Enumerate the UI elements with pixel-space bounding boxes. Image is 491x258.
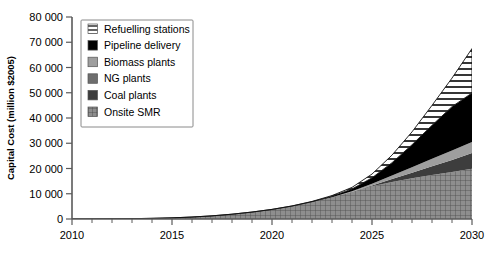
y-tick-label: 10 000: [29, 188, 63, 200]
chart-legend: Refuelling stationsPipeline deliveryBiom…: [81, 20, 193, 127]
x-tick-label: 2030: [460, 229, 484, 241]
y-tick-label: 0: [57, 213, 63, 225]
y-tick-label: 50 000: [29, 87, 63, 99]
legend-swatch-coal-plants: [88, 90, 98, 100]
x-tick-label: 2025: [360, 229, 384, 241]
legend-swatch-biomass-plants: [88, 57, 98, 66]
legend-swatch-pipeline-delivery: [88, 41, 98, 51]
legend-swatch-ng-plants: [88, 74, 98, 84]
y-tick-label: 70 000: [29, 36, 63, 48]
legend-label-onsite-smr: Onsite SMR: [104, 106, 161, 118]
legend-label-ng-plants: NG plants: [104, 72, 151, 84]
legend-label-coal-plants: Coal plants: [104, 89, 157, 101]
x-tick-label: 2020: [260, 229, 284, 241]
chart-canvas: 010 00020 00030 00040 00050 00060 00070 …: [0, 0, 491, 258]
y-tick-label: 40 000: [29, 112, 63, 124]
y-tick-label: 60 000: [29, 62, 63, 74]
y-tick-label: 80 000: [29, 11, 63, 23]
y-tick-label: 20 000: [29, 163, 63, 175]
y-tick-label: 30 000: [29, 137, 63, 149]
x-tick-label: 2010: [60, 229, 84, 241]
legend-swatch-refuelling-stations: [88, 24, 98, 34]
capital-cost-stacked-area-chart: 010 00020 00030 00040 00050 00060 00070 …: [0, 0, 491, 258]
legend-label-refuelling-stations: Refuelling stations: [104, 23, 190, 35]
legend-label-biomass-plants: Biomass plants: [104, 56, 175, 68]
legend-label-pipeline-delivery: Pipeline delivery: [104, 39, 181, 51]
legend-swatch-onsite-smr: [88, 107, 98, 117]
y-axis-title: Capital Cost (million $2005): [5, 56, 16, 180]
x-tick-label: 2015: [160, 229, 184, 241]
